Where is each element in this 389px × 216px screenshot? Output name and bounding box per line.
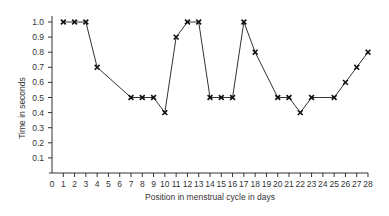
x-tick-label: 10 <box>160 179 170 189</box>
data-point-x-marker <box>354 65 359 70</box>
x-tick-label: 12 <box>183 179 193 189</box>
y-axis-title: Time in seconds <box>17 77 27 139</box>
x-axis-title: Position in menstrual cycle in days <box>145 192 275 202</box>
x-tick-label: 22 <box>296 179 306 189</box>
x-tick-label: 11 <box>172 179 181 189</box>
y-tick-label: 0.5 <box>32 93 44 103</box>
x-tick-label: 18 <box>250 179 260 189</box>
data-point-x-marker <box>298 110 303 115</box>
x-tick-label: 27 <box>352 179 362 189</box>
data-point-x-marker <box>253 50 258 55</box>
x-tick-label: 0 <box>50 179 55 189</box>
y-tick-label: 0.1 <box>32 153 44 163</box>
x-tick-label: 26 <box>341 179 351 189</box>
x-tick-label: 4 <box>95 179 100 189</box>
x-tick-label: 19 <box>262 179 272 189</box>
x-tick-label: 20 <box>273 179 283 189</box>
line-chart: 0.10.20.30.40.50.60.70.80.91.0 012345678… <box>0 0 389 216</box>
x-tick-label: 17 <box>239 179 249 189</box>
x-tick-label: 23 <box>307 179 317 189</box>
x-tick-label: 21 <box>284 179 294 189</box>
x-tick-label: 7 <box>129 179 134 189</box>
x-tick-label: 14 <box>205 179 215 189</box>
y-tick-label: 0.2 <box>32 138 44 148</box>
x-tick-label: 25 <box>329 179 339 189</box>
y-tick-label: 1.0 <box>32 17 44 27</box>
y-tick-label: 0.8 <box>32 47 44 57</box>
x-tick-label: 28 <box>363 179 373 189</box>
x-tick-label: 15 <box>217 179 227 189</box>
y-tick-label: 0.3 <box>32 123 44 133</box>
x-tick-label: 8 <box>140 179 145 189</box>
y-tick-label: 0.6 <box>32 77 44 87</box>
y-tick-label: 0.9 <box>32 32 44 42</box>
x-tick-label: 1 <box>61 179 66 189</box>
y-axis: 0.10.20.30.40.50.60.70.80.91.0 <box>32 16 52 173</box>
x-tick-label: 3 <box>83 179 88 189</box>
x-tick-label: 2 <box>72 179 77 189</box>
x-tick-label: 13 <box>194 179 204 189</box>
series-line <box>63 22 368 113</box>
x-tick-label: 9 <box>151 179 156 189</box>
y-tick-label: 0.4 <box>32 108 44 118</box>
y-tick-label: 0.7 <box>32 62 44 72</box>
plot-area <box>61 20 371 115</box>
x-tick-label: 5 <box>106 179 111 189</box>
x-tick-label: 24 <box>318 179 328 189</box>
data-point-x-marker <box>343 80 348 85</box>
x-tick-label: 6 <box>117 179 122 189</box>
data-point-x-marker <box>366 50 371 55</box>
x-tick-label: 16 <box>228 179 238 189</box>
x-axis: 0123456789101112131415161718192021222324… <box>49 173 373 189</box>
